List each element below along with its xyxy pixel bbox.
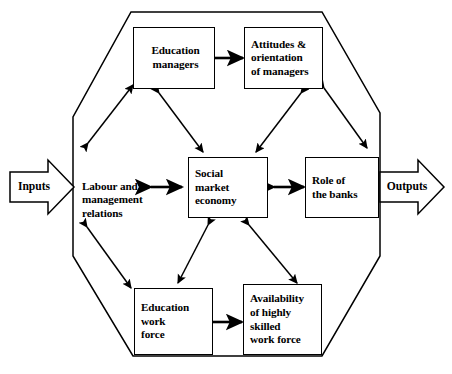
outputs-label: Outputs [382, 180, 432, 193]
node-labour-and-management-relations[interactable]: Labour and management relations [82, 166, 156, 220]
node-availability-of-highly-skilled-work-force-label: Availability of highly skilled work forc… [250, 292, 318, 346]
node-education-work-force[interactable]: Education work force [134, 288, 213, 355]
inputs-label: Inputs [10, 180, 58, 193]
node-social-market-economy-label: Social market economy [195, 167, 264, 208]
node-social-market-economy[interactable]: Social market economy [188, 157, 268, 218]
node-education-managers-label: Education managers [140, 44, 211, 71]
node-labour-and-management-relations-label: Labour and management relations [82, 180, 143, 219]
node-education-work-force-label: Education work force [141, 301, 209, 342]
node-education-managers[interactable]: Education managers [133, 27, 215, 89]
node-role-of-the-banks-label: Role of the banks [312, 174, 375, 201]
node-attitudes-orientation-of-managers[interactable]: Attitudes & orientation of managers [244, 27, 323, 89]
diagram-canvas: Inputs Outputs Education managers Attitu… [0, 0, 452, 374]
node-availability-of-highly-skilled-work-force[interactable]: Availability of highly skilled work forc… [243, 284, 322, 355]
node-attitudes-orientation-of-managers-label: Attitudes & orientation of managers [251, 38, 319, 79]
node-role-of-the-banks[interactable]: Role of the banks [305, 157, 379, 218]
